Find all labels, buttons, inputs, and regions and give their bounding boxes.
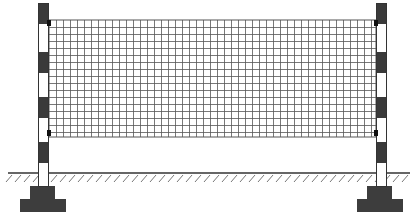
- ground-hatch: [348, 175, 354, 182]
- ground-hatch: [24, 175, 30, 182]
- post-stripe-dark: [376, 97, 387, 118]
- ground-hatch: [276, 175, 282, 182]
- footing-right-lower: [357, 199, 403, 212]
- ground-hatch: [168, 175, 174, 182]
- net-mesh: [49, 20, 376, 137]
- ground-hatch: [186, 175, 192, 182]
- ground-hatch: [267, 175, 273, 182]
- ground-hatch: [240, 175, 246, 182]
- net-border: [49, 20, 376, 137]
- post-stripe-light: [38, 73, 49, 97]
- ground-hatch: [249, 175, 255, 182]
- ground-hatch: [78, 175, 84, 182]
- ground-hatch: [177, 175, 183, 182]
- ground: [6, 173, 410, 182]
- ground-hatch: [258, 175, 264, 182]
- net-clip: [47, 130, 51, 136]
- ground-hatch: [60, 175, 66, 182]
- post-stripe-dark: [376, 52, 387, 73]
- ground-hatch: [357, 175, 363, 182]
- net-clip: [374, 130, 378, 136]
- post-stripe-light: [376, 73, 387, 97]
- net-diagram: [0, 0, 414, 224]
- ground-hatch: [285, 175, 291, 182]
- ground-hatch: [123, 175, 129, 182]
- posts: [38, 3, 387, 187]
- footing-left-upper: [30, 186, 55, 200]
- ground-hatch: [303, 175, 309, 182]
- ground-hatch: [114, 175, 120, 182]
- ground-hatch: [393, 175, 399, 182]
- ground-hatch: [6, 175, 12, 182]
- ground-hatch: [159, 175, 165, 182]
- ground-hatch: [96, 175, 102, 182]
- post-stripe-dark: [38, 97, 49, 118]
- ground-hatch: [195, 175, 201, 182]
- ground-hatch: [366, 175, 372, 182]
- post-stripe-light: [38, 24, 49, 52]
- ground-hatch: [87, 175, 93, 182]
- net-clip: [374, 20, 378, 26]
- ground-hatch: [294, 175, 300, 182]
- ground-hatch: [231, 175, 237, 182]
- post-stripe-light: [38, 163, 49, 186]
- footings: [20, 186, 403, 212]
- ground-hatch: [69, 175, 75, 182]
- ground-hatch: [213, 175, 219, 182]
- ground-hatch: [105, 175, 111, 182]
- ground-hatch: [204, 175, 210, 182]
- ground-hatch: [141, 175, 147, 182]
- post-stripe-dark: [38, 142, 49, 163]
- ground-hatch: [339, 175, 345, 182]
- post-stripe-dark: [376, 142, 387, 163]
- ground-hatch: [402, 175, 408, 182]
- ground-hatch: [15, 175, 21, 182]
- ground-hatch: [312, 175, 318, 182]
- ground-hatch: [51, 175, 57, 182]
- post-left: [38, 3, 49, 187]
- post-stripe-dark: [38, 52, 49, 73]
- ground-hatch: [222, 175, 228, 182]
- footing-right-upper: [367, 186, 392, 200]
- net-clip: [47, 20, 51, 26]
- ground-hatch: [150, 175, 156, 182]
- footing-left-lower: [20, 199, 66, 212]
- ground-hatch: [321, 175, 327, 182]
- ground-hatch: [330, 175, 336, 182]
- post-right: [376, 3, 387, 187]
- post-stripe-light: [376, 163, 387, 186]
- post-stripe-light: [376, 24, 387, 52]
- ground-hatch: [132, 175, 138, 182]
